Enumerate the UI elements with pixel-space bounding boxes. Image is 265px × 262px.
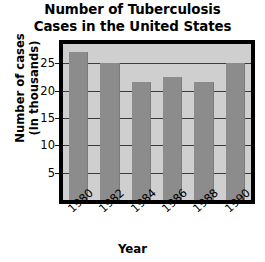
x-axis-ticks: 198019821984198619881990 xyxy=(63,205,251,239)
bar-1988 xyxy=(194,82,213,200)
y-tick-label: 10 xyxy=(33,140,55,151)
gridline xyxy=(63,63,251,64)
plot-area xyxy=(63,44,251,200)
x-axis-title: Year xyxy=(0,242,265,256)
y-tick-label: 5 xyxy=(33,167,55,178)
y-tick-label: 20 xyxy=(33,85,55,96)
y-tick-label: 25 xyxy=(33,58,55,69)
gridline xyxy=(63,173,251,174)
tuberculosis-bar-chart: Number of Tuberculosis Cases in the Unit… xyxy=(0,0,265,262)
y-axis-title-line-1: Number of cases xyxy=(13,2,27,174)
gridline xyxy=(63,91,251,92)
plot-frame xyxy=(59,40,255,204)
y-tick-label: 15 xyxy=(33,112,55,123)
y-axis-ticks: 510152025 xyxy=(33,40,55,204)
bar-1980 xyxy=(69,52,88,200)
bar-1984 xyxy=(132,82,151,200)
plot-background xyxy=(63,44,251,200)
bar-1982 xyxy=(100,63,119,200)
gridline xyxy=(63,118,251,119)
bar-1986 xyxy=(163,77,182,200)
bar-1990 xyxy=(226,63,245,200)
gridline xyxy=(63,145,251,146)
